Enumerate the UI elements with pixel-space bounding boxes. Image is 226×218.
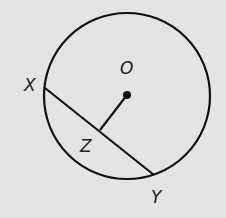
center-point-o	[123, 91, 131, 99]
label-o: O	[120, 58, 133, 78]
label-y: Y	[151, 187, 163, 207]
label-x: X	[23, 75, 36, 95]
chord-xy	[45, 88, 154, 175]
label-z: Z	[79, 136, 92, 156]
segment-oz	[100, 95, 127, 130]
diagram-canvas: O X Z Y	[0, 0, 226, 218]
circle-diagram: O X Z Y	[0, 0, 226, 218]
